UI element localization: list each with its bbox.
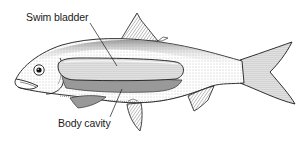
- fish-anatomy-figure: Swim bladder Body cavity: [0, 0, 307, 144]
- body-cavity-label: Body cavity: [58, 118, 111, 129]
- tail-fin: [240, 42, 295, 104]
- pectoral-fin: [70, 96, 106, 108]
- pelvic-fin: [127, 103, 142, 131]
- dorsal-fin: [120, 13, 158, 41]
- eye: [34, 65, 44, 75]
- swim-bladder-label: Swim bladder: [26, 12, 88, 23]
